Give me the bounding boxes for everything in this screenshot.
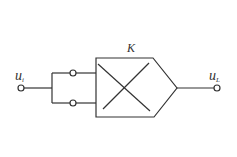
input-terminal-icon xyxy=(18,85,24,91)
output-label-subscript: L xyxy=(215,76,220,84)
input-label-base: u xyxy=(15,68,22,83)
block-cross-line-2 xyxy=(103,63,149,109)
lower-terminal-icon xyxy=(70,100,76,106)
output-label: uL xyxy=(209,68,220,84)
amplifier-block xyxy=(96,58,177,117)
input-label: ui xyxy=(15,68,24,84)
circuit-diagram: ui K uL xyxy=(0,0,237,157)
input-label-subscript: i xyxy=(22,76,24,84)
output-terminal-icon xyxy=(214,85,220,91)
upper-terminal-icon xyxy=(70,70,76,76)
output-label-base: u xyxy=(209,68,216,83)
block-label: K xyxy=(126,41,136,55)
